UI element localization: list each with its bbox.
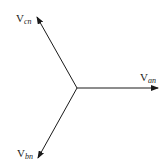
- label-vcn: Vcn: [16, 12, 32, 26]
- label-vbn: Vbn: [17, 147, 33, 161]
- phasor-vbn-arrow: [38, 88, 77, 158]
- phasor-vcn-arrow: [37, 17, 77, 88]
- phasor-diagram: Van Vbn Vcn: [0, 0, 165, 167]
- label-van: Van: [140, 71, 156, 85]
